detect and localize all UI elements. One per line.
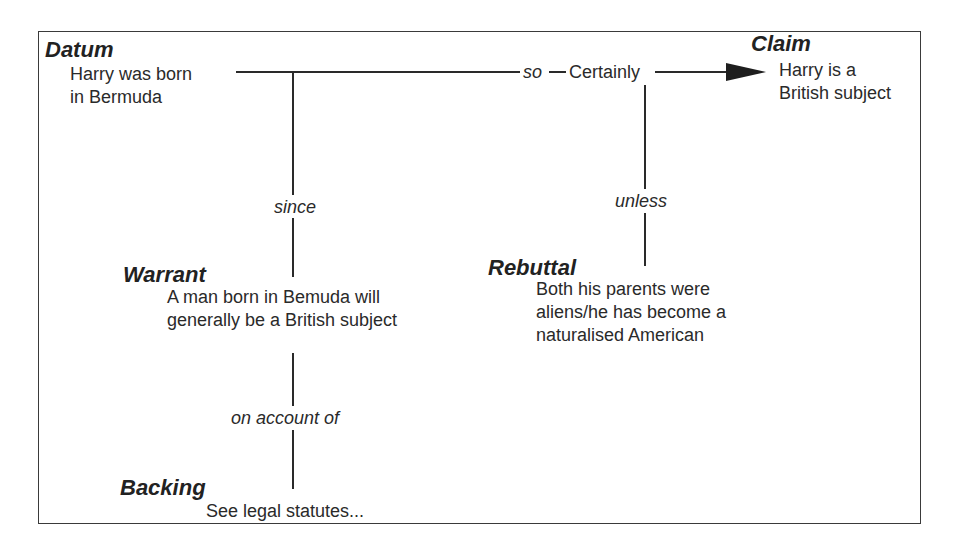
warrant-heading: Warrant [123, 263, 206, 287]
rebuttal-text: Both his parents were aliens/he has beco… [536, 278, 726, 347]
warrant-text: A man born in Bemuda will generally be a… [167, 286, 397, 332]
backing-text: See legal statutes... [206, 500, 364, 523]
arrowhead-icon [726, 63, 766, 81]
since-connector-label: since [272, 197, 318, 217]
claim-text: Harry is a British subject [779, 59, 891, 105]
unless-connector-label: unless [613, 191, 669, 211]
datum-heading: Datum [45, 38, 113, 62]
so-connector-label: so [521, 62, 544, 82]
on-account-of-connector-label: on account of [229, 408, 341, 428]
claim-heading: Claim [751, 32, 811, 56]
rebuttal-heading: Rebuttal [488, 256, 576, 280]
backing-heading: Backing [120, 476, 206, 500]
qualifier-text: Certainly [569, 62, 640, 82]
datum-text: Harry was born in Bermuda [70, 63, 192, 109]
